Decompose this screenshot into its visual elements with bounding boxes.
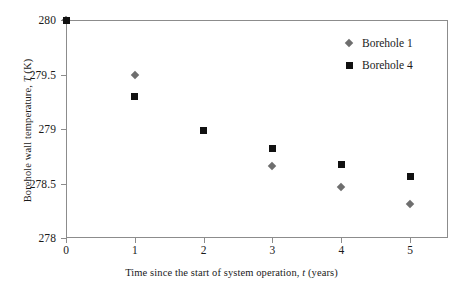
data-point-square [131,93,138,100]
x-tick [66,238,67,243]
x-tick [341,238,342,243]
legend-label: Borehole 4 [362,59,413,72]
legend-marker-icon [344,37,356,49]
data-point-square [63,17,70,24]
scatter-chart: 278278.5279279.5280 012345 Borehole 1Bor… [0,0,463,297]
x-axis-title-suffix: (years) [305,267,338,278]
y-tick [61,184,66,185]
x-tick-label: 3 [257,244,287,257]
x-tick [135,238,136,243]
x-tick [272,238,273,243]
data-point-square [269,145,276,152]
x-tick-label: 4 [326,244,356,257]
legend-item: Borehole 4 [344,54,413,76]
legend-item: Borehole 1 [344,32,413,54]
x-tick-label: 0 [51,244,81,257]
y-axis-title-suffix: (K) [22,59,33,77]
x-tick [410,238,411,243]
data-point-square [407,173,414,180]
x-axis-title-prefix: Time since the start of system operation… [125,267,302,278]
x-tick-label: 1 [120,244,150,257]
y-axis-title-symbol: T [22,76,33,82]
y-tick [61,129,66,130]
data-point-square [338,161,345,168]
x-axis-title: Time since the start of system operation… [0,267,463,278]
y-axis-title: Borehole wall temperature, T (K) [22,16,33,246]
diamond-icon [345,39,353,47]
legend-label: Borehole 1 [362,37,413,50]
chart-legend: Borehole 1Borehole 4 [344,32,413,76]
y-axis-title-prefix: Borehole wall temperature, [22,82,33,202]
x-tick [204,238,205,243]
data-point-square [200,127,207,134]
y-tick [61,75,66,76]
x-tick-label: 5 [395,244,425,257]
x-tick-label: 2 [189,244,219,257]
legend-marker-icon [344,59,356,71]
square-icon [346,62,353,69]
